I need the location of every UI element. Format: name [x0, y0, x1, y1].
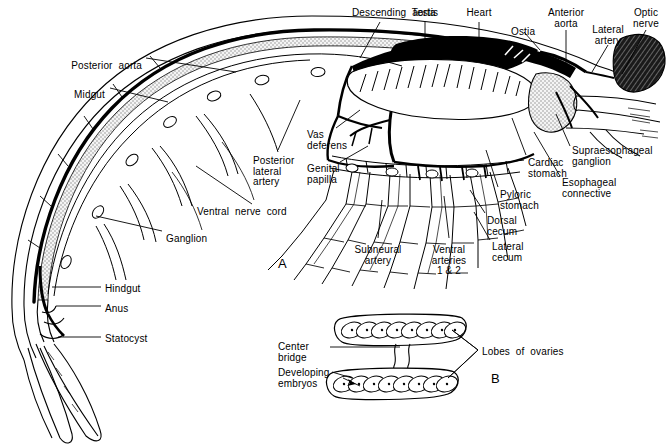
label-vas_deferens: Vas deferens — [307, 130, 347, 151]
label-testis: Testis — [412, 8, 438, 19]
pleopods — [96, 94, 278, 280]
label-developing_embryos: Developing embryos — [278, 368, 330, 389]
label-heart: Heart — [466, 8, 491, 19]
label-posterior_lateral_artery: Posterior lateral artery — [253, 156, 294, 188]
label-genital_papilla: Genital papilla — [307, 164, 340, 185]
label-ganglion: Ganglion — [166, 234, 207, 245]
label-lateral_cecum: Lateral cecum — [492, 242, 524, 263]
label-hindgut: Hindgut — [105, 284, 141, 295]
label-cardiac_stomach: Cardiac stomach — [528, 158, 567, 179]
panel-b-ovaries — [327, 314, 478, 400]
label-center_bridge: Center bridge — [278, 342, 309, 363]
label-anus: Anus — [105, 304, 128, 315]
label-esophageal_connective: Esophageal connective — [562, 178, 616, 199]
label-posterior_aorta: Posterior aorta — [71, 61, 142, 72]
label-dorsal_cecum: Dorsal cecum — [487, 216, 517, 237]
label-ostia: Ostia — [511, 27, 535, 38]
panel-label-b: B — [491, 371, 500, 386]
label-subneural_artery: Subneural artery — [355, 245, 402, 266]
label-anterior_aorta: Anterior aorta — [548, 8, 584, 29]
tail-region — [12, 300, 101, 443]
label-statocyst: Statocyst — [105, 334, 147, 345]
label-pyloric_stomach: Pyloric stomach — [500, 190, 539, 211]
label-lateral_artery: Lateral artery — [592, 25, 624, 46]
anatomy-figure: Descending aortaTestisHeartOstiaAnterior… — [0, 0, 668, 447]
upper-ovary-lobe — [335, 314, 468, 346]
label-ventral_arteries: Ventral arteries 1 & 2 — [432, 245, 467, 277]
label-optic_nerve: Optic nerve — [633, 8, 659, 29]
label-supraesophageal_ganglion: Supraesophageal ganglion — [572, 146, 653, 167]
label-ventral_nerve_cord: Ventral nerve cord — [197, 207, 287, 218]
lower-ovary-lobe — [327, 368, 460, 400]
panel-label-a: A — [278, 256, 287, 271]
label-midgut: Midgut — [74, 90, 105, 101]
label-lobes_of_ovaries: Lobes of ovaries — [482, 347, 564, 358]
